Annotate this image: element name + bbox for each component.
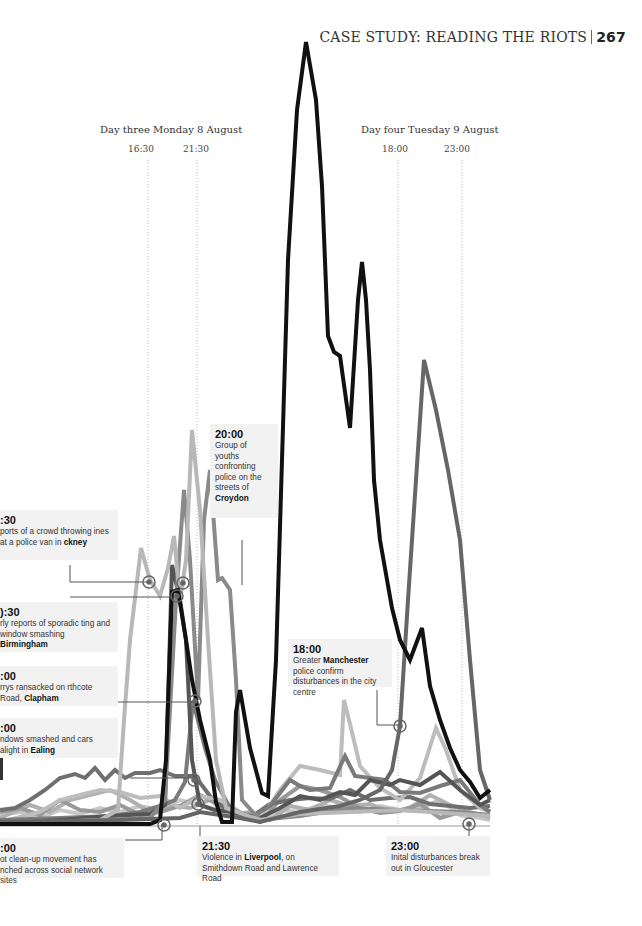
annotation-manchester: 18:00 Greater Manchester police confirm … — [288, 639, 392, 687]
annotation-time: :30 — [0, 514, 113, 527]
annotation-liverpool: 21:30 Violence in Liverpool, on Smithdow… — [197, 836, 339, 876]
annotation-place: Clapham — [24, 694, 59, 703]
annotation-place: ckney — [64, 538, 87, 547]
annotation-time: :00 — [0, 722, 113, 735]
annotation-text: rly reports of sporadic ting and window … — [0, 619, 110, 639]
annotation-text: Violence in — [202, 853, 244, 862]
annotation-time: :00 — [0, 670, 113, 683]
annotation-gloucester: 23:00 Inital disturbances break out in G… — [386, 836, 490, 876]
annotation-place: Manchester — [323, 656, 369, 665]
annotation-clapham: :00 rrys ransacked on rthcote Road, Clap… — [0, 666, 118, 706]
annotation-time: 20:00 — [215, 428, 273, 441]
annotation-text: Greater — [293, 656, 323, 665]
annotation-time: 23:00 — [391, 840, 485, 853]
annotation-cleanup: :00 ot clean-up movement has nched acros… — [0, 838, 124, 878]
annotation-text: Group of youths confronting police on th… — [215, 441, 261, 492]
annotation-place: Liverpool — [244, 853, 281, 862]
annotation-place: Croydon — [215, 494, 249, 503]
annotation-place: Birmingham — [0, 640, 48, 649]
annotation-text: Inital disturbances break out in Glouces… — [391, 853, 480, 873]
tweet-volume-chart — [0, 0, 642, 926]
annotation-place: Ealing — [31, 746, 56, 755]
annotation-time: :00 — [0, 842, 119, 855]
annotation-text: ot clean-up movement has nched across so… — [0, 855, 103, 885]
annotation-text: ports of a crowd throwing ines at a poli… — [0, 527, 109, 547]
annotation-text-post: police confirm disturbances in the city … — [293, 667, 376, 697]
annotation-birmingham: ):30 rly reports of sporadic ting and wi… — [0, 602, 118, 652]
annotation-ealing: :00 ndows smashed and cars alight in Eal… — [0, 718, 118, 758]
annotation-time: 21:30 — [202, 840, 334, 853]
annotation-time: ):30 — [0, 606, 113, 619]
ealing-color-swatch — [0, 758, 3, 780]
annotation-hackney: :30 ports of a crowd throwing ines at a … — [0, 510, 118, 560]
annotation-time: 18:00 — [293, 643, 387, 656]
annotation-croydon: 20:00 Group of youths confronting police… — [210, 424, 278, 518]
